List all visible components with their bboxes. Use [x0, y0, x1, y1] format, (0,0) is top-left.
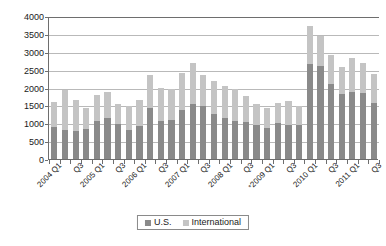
bar-segment-international — [339, 67, 345, 95]
bar-segment-us — [232, 121, 238, 159]
bar-segment-us — [285, 125, 291, 159]
legend-entry-us: U.S. — [145, 218, 172, 227]
bar-segment-international — [190, 63, 196, 104]
bar-group — [371, 74, 377, 159]
y-tick-label: 2000 — [0, 84, 44, 93]
bar-segment-international — [371, 74, 377, 103]
bar-group — [126, 106, 132, 159]
legend-entry-international: International — [182, 218, 241, 227]
bar-group — [83, 108, 89, 159]
bar-segment-international — [147, 75, 153, 108]
bar-segment-international — [51, 102, 57, 127]
bar-group — [147, 75, 153, 159]
x-tick-label: Q3 — [369, 161, 383, 175]
bar-segment-international — [62, 90, 68, 130]
legend-swatch-icon — [145, 220, 151, 226]
bar-group — [104, 92, 110, 159]
bar-group — [328, 55, 334, 159]
x-tick-label: Q3 — [241, 161, 255, 175]
bar-segment-international — [168, 89, 174, 120]
legend-swatch-icon — [182, 220, 188, 226]
bar-segment-us — [190, 104, 196, 159]
x-tick-label-text: Q3 — [284, 161, 298, 175]
bar-segment-us — [264, 128, 270, 159]
bar-segment-us — [349, 92, 355, 159]
bar-segment-us — [317, 66, 323, 159]
bar-group — [307, 26, 313, 159]
bar-group — [62, 90, 68, 159]
bar-segment-us — [62, 130, 68, 159]
bar-group — [243, 96, 249, 159]
bar-segment-international — [307, 26, 313, 64]
bar-group — [275, 103, 281, 159]
y-tick-label: 1000 — [0, 120, 44, 129]
bar-segment-us — [243, 122, 249, 159]
bar-segment-us — [126, 130, 132, 159]
bar-group — [211, 81, 217, 159]
bar-segment-international — [264, 108, 270, 128]
x-tick-label: Q3 — [114, 161, 128, 175]
bars-layer — [49, 16, 379, 159]
legend-label: U.S. — [154, 218, 172, 227]
bar-group — [317, 36, 323, 159]
bar-segment-us — [147, 108, 153, 159]
bar-group — [190, 63, 196, 159]
x-tick-label: Q3 — [199, 161, 213, 175]
bar-segment-international — [83, 108, 89, 129]
bar-segment-international — [126, 106, 132, 130]
legend-label: International — [191, 218, 241, 227]
x-axis-labels: 2004 Q1Q32005 Q1Q32006 Q1Q32007 Q1Q32008… — [48, 161, 378, 209]
bar-segment-international — [200, 75, 206, 107]
bar-segment-us — [158, 121, 164, 159]
bar-segment-international — [136, 100, 142, 125]
x-tick-label: Q3 — [156, 161, 170, 175]
bar-segment-us — [83, 129, 89, 159]
bar-group — [115, 104, 121, 159]
bar-segment-international — [243, 96, 249, 122]
bar-segment-us — [296, 125, 302, 159]
bar-segment-international — [285, 101, 291, 124]
y-tick-label: 4000 — [0, 13, 44, 22]
bar-group — [168, 89, 174, 159]
x-tick-label-text: Q3 — [327, 161, 341, 175]
bar-segment-us — [371, 103, 377, 159]
bar-group — [73, 100, 79, 159]
x-tick-label: Q3 — [71, 161, 85, 175]
bar-group — [264, 108, 270, 159]
bar-segment-us — [200, 106, 206, 159]
chart-legend: U.S.International — [137, 215, 249, 230]
bar-group — [296, 106, 302, 159]
bar-segment-international — [328, 55, 334, 84]
bar-group — [222, 86, 228, 159]
bar-group — [339, 67, 345, 159]
y-tick-label: 500 — [0, 138, 44, 147]
chart-container: 05001000150020002500300035004000 2004 Q1… — [0, 0, 386, 246]
bar-segment-international — [104, 92, 110, 117]
bar-segment-us — [104, 118, 110, 159]
bar-segment-international — [349, 58, 355, 92]
x-tick-label-text: Q3 — [156, 161, 170, 175]
bar-segment-international — [253, 104, 259, 125]
bar-segment-international — [360, 63, 366, 93]
bar-segment-us — [73, 131, 79, 159]
bar-segment-us — [51, 127, 57, 159]
bar-segment-international — [296, 106, 302, 126]
bar-segment-us — [360, 93, 366, 159]
bar-segment-international — [211, 81, 217, 114]
bar-segment-us — [94, 121, 100, 159]
bar-segment-us — [136, 126, 142, 159]
x-tick-label-text: Q3 — [369, 161, 383, 175]
bar-group — [200, 75, 206, 159]
bar-group — [285, 101, 291, 159]
x-tick-label-text: Q3 — [114, 161, 128, 175]
x-tick-label: Q3 — [284, 161, 298, 175]
bar-group — [179, 73, 185, 159]
bar-group — [232, 89, 238, 159]
bar-segment-us — [168, 120, 174, 159]
bar-segment-us — [275, 123, 281, 159]
bar-segment-international — [179, 73, 185, 111]
x-tick-label-text: Q3 — [241, 161, 255, 175]
bar-segment-us — [211, 114, 217, 159]
bar-segment-us — [179, 110, 185, 159]
bar-segment-international — [275, 103, 281, 123]
